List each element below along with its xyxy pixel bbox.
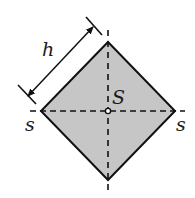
centroid-point <box>105 108 110 113</box>
axis-label-left: s <box>25 113 35 135</box>
dimension-line-h <box>61 27 93 61</box>
axis-label-right: s <box>176 113 186 135</box>
cross-section-diagram: h S s s <box>0 0 195 198</box>
dimension-tick-bottom <box>18 85 36 104</box>
dimension-line-h-lower <box>28 61 61 96</box>
centroid-label: S <box>112 86 125 108</box>
height-label: h <box>42 38 54 60</box>
